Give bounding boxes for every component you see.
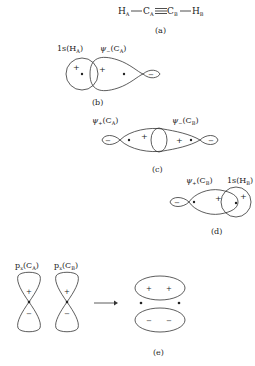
atom-ca: CA bbox=[143, 6, 154, 17]
atom-cb: CB bbox=[167, 6, 178, 17]
nucleus-cb bbox=[193, 201, 195, 203]
sign: + bbox=[73, 63, 80, 72]
pi-lower-lobe bbox=[135, 308, 185, 332]
sign: − bbox=[208, 137, 214, 145]
label-1s-hb: 1s(HB) bbox=[227, 176, 253, 186]
sign: − bbox=[64, 310, 70, 318]
sign: − bbox=[105, 137, 111, 145]
caption-c: (c) bbox=[152, 165, 163, 174]
acetylene-orbital-diagram: HA CA CB HB (a) 1s(HA) ψ−(CA) + + − (b) … bbox=[0, 0, 255, 366]
sign: − bbox=[26, 310, 32, 318]
nucleus-ha bbox=[81, 73, 83, 75]
sign: + bbox=[215, 194, 222, 203]
sign: + bbox=[166, 285, 172, 293]
sign: + bbox=[146, 285, 152, 293]
label-px-ca: px(CA) bbox=[15, 261, 39, 271]
atom-ha: HA bbox=[118, 6, 130, 17]
nucleus-hb bbox=[235, 202, 237, 204]
sign: + bbox=[26, 288, 32, 296]
sign: + bbox=[240, 192, 247, 201]
nucleus-cb bbox=[178, 302, 181, 305]
nucleus-cb bbox=[190, 139, 192, 141]
pi-upper-lobe bbox=[135, 276, 185, 300]
sign: − bbox=[166, 317, 172, 325]
caption-a: (a) bbox=[155, 26, 166, 35]
label-1s-ha: 1s(HA) bbox=[57, 44, 83, 54]
nucleus-cb bbox=[66, 301, 69, 304]
label-px-cb: px(CB) bbox=[54, 261, 78, 271]
caption-d: (d) bbox=[211, 227, 222, 236]
label-psi-minus-cb: ψ−(CB) bbox=[172, 116, 199, 126]
panel-a: HA CA CB HB (a) bbox=[118, 6, 204, 35]
label-psi-ca: ψ−(CA) bbox=[100, 44, 126, 54]
sign: + bbox=[64, 288, 70, 296]
sign: − bbox=[174, 199, 180, 207]
triple-bond bbox=[155, 9, 167, 14]
nucleus-ca bbox=[123, 73, 125, 75]
sign: − bbox=[148, 71, 154, 79]
arrow-icon bbox=[94, 301, 118, 306]
caption-e: (e) bbox=[153, 348, 164, 357]
label-psi-plus-ca: ψ+(CA) bbox=[92, 116, 118, 126]
panel-d: ψ+(CB) 1s(HB) − + + (d) bbox=[170, 176, 253, 236]
caption-b: (b) bbox=[92, 98, 103, 107]
atom-hb: HB bbox=[192, 6, 204, 17]
sp-orbital-cb-large-lobe bbox=[189, 190, 238, 215]
nucleus-ca bbox=[140, 302, 143, 305]
panel-b: 1s(HA) ψ−(CA) + + − (b) bbox=[57, 44, 160, 107]
nucleus-ca bbox=[28, 301, 31, 304]
overlap-region bbox=[151, 128, 167, 152]
sign: − bbox=[146, 317, 152, 325]
panel-c: ψ+(CA) ψ−(CB) − + + − (c) bbox=[88, 116, 218, 174]
sign: + bbox=[176, 136, 183, 145]
sp-overlap-envelope bbox=[120, 128, 200, 151]
panel-e: px(CA) px(CB) + − + − + + − − (e) bbox=[15, 261, 185, 357]
sign: + bbox=[141, 132, 148, 141]
sign: + bbox=[99, 65, 106, 74]
nucleus-ca bbox=[128, 139, 130, 141]
label-psi-plus-cb: ψ+(CB) bbox=[186, 176, 213, 186]
